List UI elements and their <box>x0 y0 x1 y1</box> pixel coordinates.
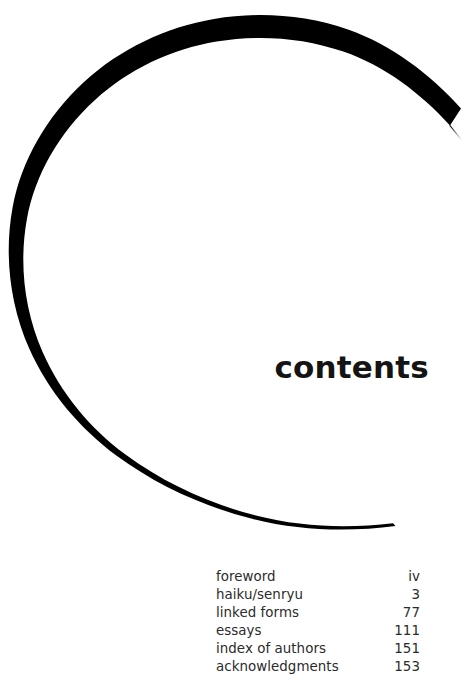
toc-entry-label: essays <box>216 622 262 640</box>
brush-stroke-tip-upper-icon <box>450 126 462 140</box>
toc-entry-page: 77 <box>403 604 420 622</box>
toc-entry-page: iv <box>408 568 420 586</box>
list-item[interactable]: foreword iv <box>216 568 420 586</box>
list-item[interactable]: linked forms 77 <box>216 604 420 622</box>
list-item[interactable]: haiku/senryu 3 <box>216 586 420 604</box>
list-item[interactable]: essays 111 <box>216 622 420 640</box>
brush-stroke-path <box>9 15 461 530</box>
toc-entry-page: 151 <box>394 640 420 658</box>
toc-entry-label: acknowledgments <box>216 658 339 676</box>
page-title: contents <box>0 352 429 383</box>
toc-entry-label: index of authors <box>216 640 326 658</box>
toc-entry-label: haiku/senryu <box>216 586 303 604</box>
contents-page: contents foreword iv haiku/senryu 3 link… <box>0 0 465 684</box>
toc-entry-label: linked forms <box>216 604 299 622</box>
toc-entry-label: foreword <box>216 568 276 586</box>
toc-entry-page: 153 <box>394 658 420 676</box>
toc-entry-page: 3 <box>411 586 420 604</box>
list-item[interactable]: acknowledgments 153 <box>216 658 420 676</box>
table-of-contents: foreword iv haiku/senryu 3 linked forms … <box>216 568 420 676</box>
toc-entry-page: 111 <box>394 622 420 640</box>
list-item[interactable]: index of authors 151 <box>216 640 420 658</box>
